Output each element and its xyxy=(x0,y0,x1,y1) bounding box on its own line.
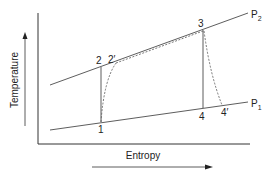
isobar-p2 xyxy=(50,13,248,85)
isobar-p1 xyxy=(50,102,248,130)
ts-diagram: Temperature Entropy P2 P1 2 2′ 3 1 4 4′ xyxy=(0,0,273,177)
point-2-label: 2 xyxy=(96,55,102,66)
point-2prime-label: 2′ xyxy=(108,54,116,65)
process-3-4prime xyxy=(204,31,222,105)
process-2prime-3 xyxy=(116,31,203,63)
point-4-label: 4 xyxy=(199,111,205,122)
x-axis-label: Entropy xyxy=(126,150,160,161)
point-3-label: 3 xyxy=(198,18,204,29)
temperature-arrow-icon xyxy=(23,32,28,39)
point-1-label: 1 xyxy=(98,124,104,135)
y-axis-label: Temperature xyxy=(9,51,20,108)
isobar-p2-label: P2 xyxy=(251,9,262,22)
entropy-arrow-icon xyxy=(205,165,213,170)
point-4prime-label: 4′ xyxy=(221,107,229,118)
process-1-2prime xyxy=(101,63,116,122)
isobar-p1-label: P1 xyxy=(251,98,262,111)
